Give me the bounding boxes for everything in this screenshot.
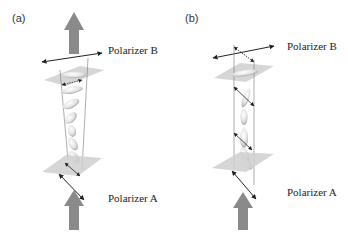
light-out-arrow-icon <box>64 12 84 54</box>
light-in-arrow-icon <box>64 190 84 230</box>
director-top-icon <box>234 47 254 62</box>
panel-b <box>212 45 274 230</box>
panel-a-label: (a) <box>12 12 25 24</box>
polarizer-a-plate <box>212 152 274 172</box>
panel-a <box>42 12 104 230</box>
diagram-canvas <box>0 0 348 233</box>
panel-b-polarizer-a-label: Polarizer A <box>287 186 337 198</box>
polarizer-a-plate <box>42 155 102 176</box>
light-in-arrow-icon <box>233 192 253 230</box>
polarizer-b-axis-icon <box>213 46 274 58</box>
panel-a-polarizer-a-label: Polarizer A <box>108 192 158 204</box>
panel-a-polarizer-b-label: Polarizer B <box>108 44 158 56</box>
panel-b-label: (b) <box>185 12 198 24</box>
panel-b-polarizer-b-label: Polarizer B <box>287 40 337 52</box>
polarizer-b-axis-icon <box>42 53 102 62</box>
